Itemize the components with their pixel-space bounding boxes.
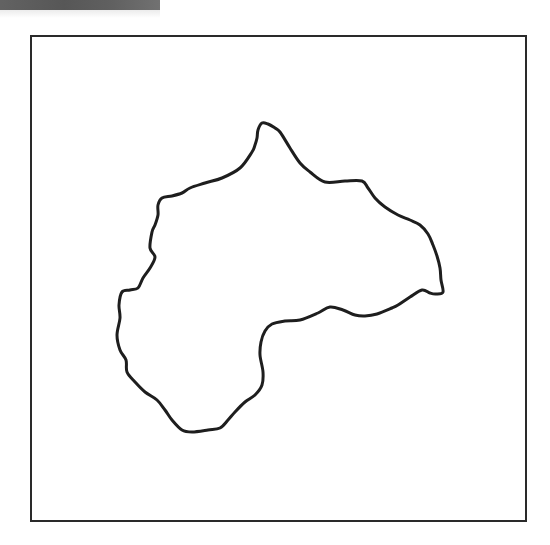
map-canvas [0, 0, 550, 545]
region-outline [117, 123, 443, 432]
